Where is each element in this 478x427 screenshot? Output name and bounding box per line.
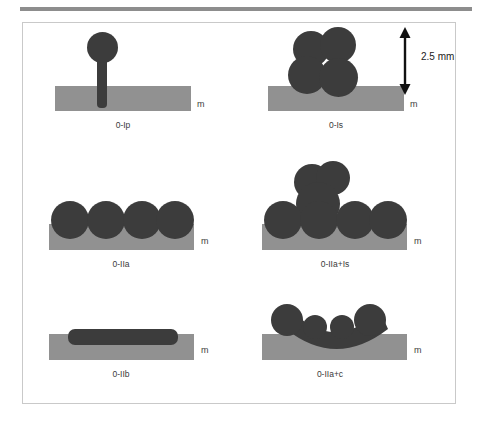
particle-sphere — [87, 32, 118, 63]
particle-sphere — [303, 315, 327, 339]
particle-sphere — [156, 201, 194, 239]
particle-sphere — [319, 58, 358, 97]
membrane-substrate — [55, 86, 191, 111]
dimension-label: 2.5 mm — [421, 51, 454, 62]
particle-sphere — [87, 201, 125, 239]
particle-sphere — [271, 304, 303, 336]
particle-sphere — [264, 201, 302, 239]
panel-0-Is: 2.5 mm m 0-Is — [240, 23, 457, 151]
panel-caption: 0-IIb — [81, 369, 161, 379]
membrane-label: m — [410, 99, 418, 109]
particle-rod — [68, 329, 178, 345]
membrane-label: m — [201, 236, 209, 246]
panel-0-IIa-Is: m 0-IIa+Is — [240, 151, 457, 279]
membrane-label: m — [414, 236, 422, 246]
particle-sphere — [369, 201, 407, 239]
panel-caption: 0-IIa+Is — [295, 259, 375, 269]
panel-caption: 0-IIa — [81, 259, 161, 269]
panel-caption: 0-Ip — [83, 120, 163, 130]
figure-frame: m 0-Ip 2.5 mm m 0-Is m 0-IIa — [22, 22, 456, 404]
panel-0-IIb: m 0-IIb — [23, 279, 240, 405]
membrane-label: m — [414, 345, 422, 355]
panel-caption: 0-IIa+c — [290, 369, 370, 379]
particle-sphere — [300, 201, 338, 239]
particle-sphere — [354, 304, 386, 336]
particle-sphere — [51, 201, 89, 239]
particle-sphere — [330, 315, 354, 339]
panel-0-IIa-c: m 0-IIa+c — [240, 279, 457, 405]
dimension-arrow — [392, 27, 418, 95]
top-horizontal-rule — [20, 7, 472, 11]
membrane-label: m — [197, 99, 205, 109]
membrane-label: m — [201, 345, 209, 355]
panel-caption: 0-Is — [296, 120, 376, 130]
panel-0-IIa: m 0-IIa — [23, 151, 240, 279]
panel-0-Ip: m 0-Ip — [23, 23, 240, 151]
